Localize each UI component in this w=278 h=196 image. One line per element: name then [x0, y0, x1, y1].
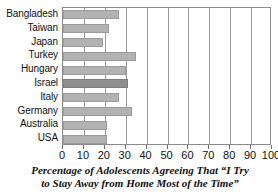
category-label-japan: Japan: [0, 37, 58, 47]
category-label-usa: USA: [0, 133, 58, 143]
bar-japan: [63, 38, 103, 47]
x-tick-label: 60: [181, 149, 193, 161]
bar-row: [63, 24, 272, 33]
chart-caption: Percentage of Adolescents Agreeing That …: [4, 164, 276, 190]
category-label-hungary: Hungary: [0, 64, 58, 74]
x-tick-label: 40: [139, 149, 151, 161]
bar-row: [63, 52, 272, 61]
bar-row: [63, 10, 272, 19]
category-label-taiwan: Taiwan: [0, 23, 58, 33]
bar-row: [63, 66, 272, 75]
x-tick-label: 90: [244, 149, 256, 161]
bar-taiwan: [63, 24, 109, 33]
bar-germany: [63, 107, 132, 116]
x-tick-label: 30: [119, 149, 131, 161]
x-tick-label: 80: [223, 149, 235, 161]
bar-bangladesh: [63, 10, 119, 19]
x-tick-label: 0: [59, 149, 65, 161]
category-label-italy: Italy: [0, 92, 58, 102]
x-tick-label: 50: [160, 149, 172, 161]
bar-row: [63, 107, 272, 116]
x-axis-tick-labels: 0102030405060708090100: [0, 149, 278, 162]
bar-israel: [63, 79, 128, 88]
category-label-bangladesh: Bangladesh: [0, 9, 58, 19]
bar-row: [63, 121, 272, 130]
caption-line: to Stay Away from Home Most of the Time”: [4, 177, 276, 190]
category-axis: BangladeshTaiwanJapanTurkeyHungaryIsrael…: [0, 7, 58, 145]
bar-row: [63, 38, 272, 47]
bar-row: [63, 135, 272, 144]
category-label-germany: Germany: [0, 106, 58, 116]
bar-turkey: [63, 52, 136, 61]
bar-hungary: [63, 66, 126, 75]
caption-line: Percentage of Adolescents Agreeing That …: [4, 164, 276, 177]
bar-row: [63, 79, 272, 88]
bar-italy: [63, 93, 119, 102]
category-label-turkey: Turkey: [0, 50, 58, 60]
bar-chart: BangladeshTaiwanJapanTurkeyHungaryIsrael…: [0, 0, 278, 196]
category-label-australia: Australia: [0, 119, 58, 129]
plot-area: [62, 7, 271, 145]
x-tick-label: 70: [202, 149, 214, 161]
x-tick-label: 10: [77, 149, 89, 161]
bar-usa: [63, 135, 107, 144]
bars-layer: [63, 8, 270, 144]
bar-australia: [63, 121, 107, 130]
x-tick-label: 20: [98, 149, 110, 161]
x-tick-label: 100: [262, 149, 278, 161]
category-label-israel: Israel: [0, 78, 58, 88]
bar-row: [63, 93, 272, 102]
